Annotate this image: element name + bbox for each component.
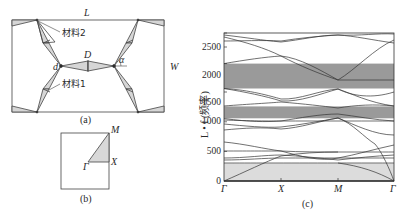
caption-c: (c) [302,198,313,209]
label-X: X [111,157,117,167]
unit-cell-diagram [12,19,164,113]
label-d: d [53,62,58,72]
xtick-M: M [334,184,342,194]
ytick-2000: 2000 [191,70,221,80]
caption-b: (b) [80,193,92,204]
label-W: W [170,62,178,72]
band-structure-plot [224,33,394,181]
y-axis-label: L • f (频率) [196,91,211,138]
band-gap-1 [224,64,394,89]
label-Gamma: Γ [83,162,89,172]
label-material-1: 材料1 [62,79,86,89]
label-alpha: α [119,55,124,65]
label-M: M [111,125,119,135]
ytick-0: 0 [191,176,221,186]
caption-a: (a) [80,114,91,125]
ytick-500: 500 [191,146,221,156]
label-material-2: 材料2 [62,28,86,38]
ytick-2500: 2500 [191,42,221,52]
xtick-gamma-1: Γ [221,184,227,194]
xtick-gamma-2: Γ [390,184,396,194]
band-gap-3 [224,163,394,181]
label-D: D [84,50,91,60]
xtick-X: X [278,184,284,194]
label-L: L [84,8,90,18]
